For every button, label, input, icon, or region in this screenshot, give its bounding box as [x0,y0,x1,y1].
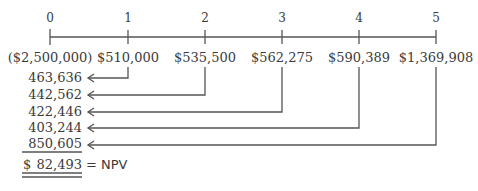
cash-flow-value: $590,389 [328,51,390,64]
cash-flow-value: $1,369,908 [399,51,473,64]
present-value: 463,636 [12,71,82,84]
period-label: 2 [201,12,209,24]
cash-flow-value: ($2,500,000) [8,51,93,64]
present-value: 442,562 [12,88,82,101]
npv-label: = NPV [86,158,127,171]
cash-flow-value: $510,000 [97,51,159,64]
npv-timeline-diagram: 0 1 2 3 4 5 ($2,500,000) $510,000 $535,5… [0,0,478,191]
present-value: 422,446 [12,105,82,118]
npv-value: 82,493 [12,158,82,171]
period-label: 4 [355,12,363,24]
present-value: 403,244 [12,121,82,134]
period-label: 3 [278,12,286,24]
present-value: 850,605 [12,137,82,150]
period-label: 0 [46,12,54,24]
period-label: 5 [432,12,440,24]
cash-flow-value: $535,500 [174,51,236,64]
period-label: 1 [124,12,132,24]
cash-flow-value: $562,275 [251,51,313,64]
